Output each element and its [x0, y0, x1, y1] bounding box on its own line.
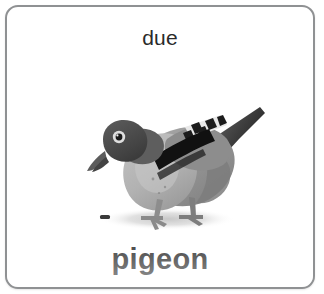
vocabulary-word: pigeon: [7, 243, 313, 276]
ground-shadow-shape: [99, 208, 235, 230]
seed-speck-shape: [100, 215, 110, 219]
flashcard: due: [5, 5, 315, 289]
eye-glint: [116, 134, 118, 136]
pigeon-illustration: [7, 67, 315, 237]
eye-shape: [116, 134, 123, 141]
head-shape: [103, 120, 147, 162]
translation-word: due: [7, 26, 313, 50]
